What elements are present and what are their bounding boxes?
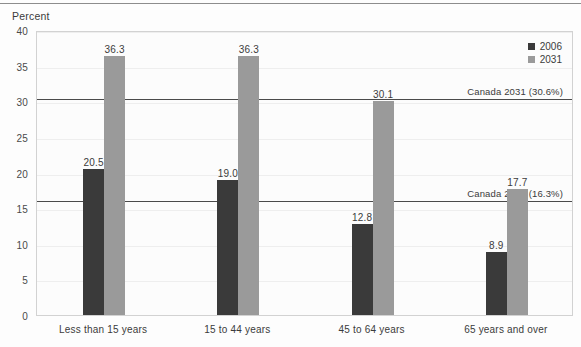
bar-value-label: 36.3 <box>239 44 259 55</box>
x-axis-category-label: 45 to 64 years <box>339 324 405 335</box>
bar-value-label: 8.9 <box>489 240 504 251</box>
y-axis-tick-label: 25 <box>16 132 28 143</box>
y-axis-tick-label: 20 <box>16 168 28 179</box>
bar[interactable] <box>238 56 259 315</box>
bar-value-label: 12.8 <box>352 212 372 223</box>
y-axis-tick-label: 0 <box>22 311 28 322</box>
bar-value-label: 20.5 <box>83 157 103 168</box>
legend-swatch-2031 <box>528 56 535 63</box>
bar[interactable] <box>217 180 238 315</box>
bar[interactable] <box>486 252 507 315</box>
x-axis-category-label: 15 to 44 years <box>204 324 270 335</box>
bar-value-label: 30.1 <box>373 89 393 100</box>
x-axis-category-label: 65 years and over <box>464 324 547 335</box>
legend-swatch-2006 <box>528 43 535 50</box>
y-axis-tick-label: 30 <box>16 97 28 108</box>
plot-area: Canada 2031 (30.6%)Canada 2006 (16.3%) 2… <box>36 31 573 316</box>
reference-line-label: Canada 2031 (30.6%) <box>467 86 563 97</box>
bar[interactable] <box>104 56 125 315</box>
chart-legend: 2006 2031 <box>528 40 562 66</box>
top-divider <box>0 3 581 4</box>
bar[interactable] <box>352 224 373 315</box>
gridline <box>37 32 572 33</box>
y-axis-tick-label: 40 <box>16 26 28 37</box>
y-axis-title: Percent <box>12 10 50 22</box>
legend-item-2031[interactable]: 2031 <box>528 53 562 66</box>
bar-value-label: 17.7 <box>507 177 527 188</box>
bar-value-label: 36.3 <box>104 44 124 55</box>
y-axis-tick-label: 15 <box>16 204 28 215</box>
legend-item-2006[interactable]: 2006 <box>528 40 562 53</box>
y-axis-tick-label: 35 <box>16 61 28 72</box>
y-axis: 0510152025303540 <box>0 31 32 316</box>
bar[interactable] <box>83 169 104 315</box>
x-axis-category-label: Less than 15 years <box>59 324 147 335</box>
y-axis-tick-label: 5 <box>22 275 28 286</box>
bar[interactable] <box>373 101 394 315</box>
chart-figure: Percent 0510152025303540 Canada 2031 (30… <box>0 0 581 347</box>
legend-label-2006: 2006 <box>540 40 562 53</box>
bar[interactable] <box>507 189 528 315</box>
bar-value-label: 19.0 <box>218 168 238 179</box>
y-axis-tick-label: 10 <box>16 239 28 250</box>
legend-label-2031: 2031 <box>540 53 562 66</box>
